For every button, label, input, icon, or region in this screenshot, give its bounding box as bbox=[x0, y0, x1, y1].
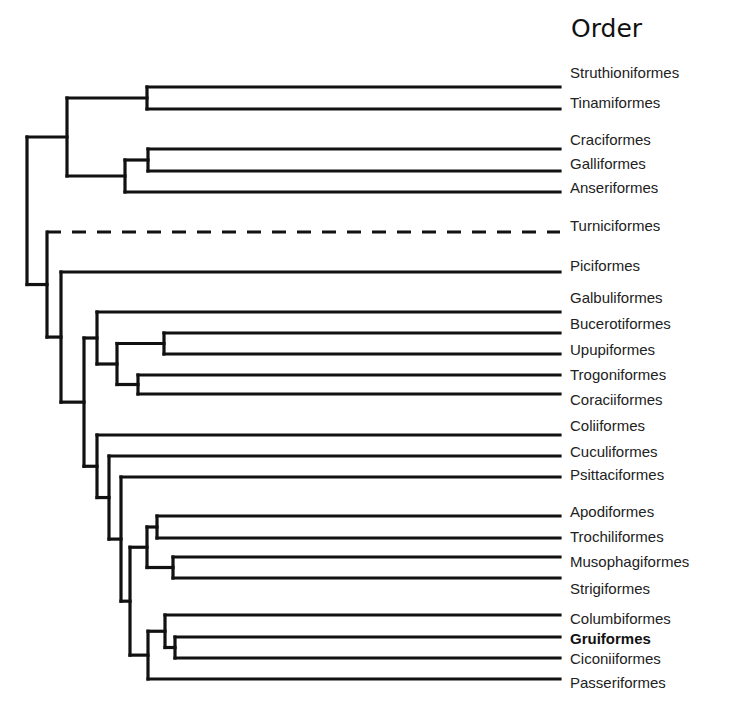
tip-label-colii: Coliiformes bbox=[570, 417, 645, 435]
tip-label-musophagi: Musophagiformes bbox=[570, 553, 689, 571]
tip-label-anseri: Anseriformes bbox=[570, 179, 658, 197]
tip-label-tinami: Tinamiformes bbox=[570, 94, 660, 112]
tip-label-apodi: Apodiformes bbox=[570, 503, 654, 521]
tip-label-galli: Galliformes bbox=[570, 155, 646, 173]
tip-label-pici: Piciformes bbox=[570, 257, 640, 275]
tip-label-grui: Gruiformes bbox=[570, 630, 651, 648]
tip-label-turnici: Turniciformes bbox=[570, 217, 660, 235]
tip-label-strigi: Strigiformes bbox=[570, 580, 650, 598]
tip-label-craci: Craciformes bbox=[570, 131, 651, 149]
tip-label-trochili: Trochiliformes bbox=[570, 528, 664, 546]
tip-label-passeri: Passeriformes bbox=[570, 674, 666, 692]
tip-label-upupi: Upupiformes bbox=[570, 341, 655, 359]
tip-label-bucero: Bucerotiformes bbox=[570, 315, 671, 333]
tip-label-cuculi: Cuculiformes bbox=[570, 443, 658, 461]
tip-label-trogoni: Trogoniformes bbox=[570, 366, 666, 384]
tip-label-galbuli: Galbuliformes bbox=[570, 289, 663, 307]
tip-label-columbi: Columbiformes bbox=[570, 610, 671, 628]
column-title: Order bbox=[571, 14, 642, 43]
tip-label-struthio: Struthioniformes bbox=[570, 64, 679, 82]
tip-label-psittaci: Psittaciformes bbox=[570, 466, 664, 484]
tip-label-coracii: Coraciiformes bbox=[570, 391, 663, 409]
tip-label-ciconii: Ciconiiformes bbox=[570, 650, 661, 668]
